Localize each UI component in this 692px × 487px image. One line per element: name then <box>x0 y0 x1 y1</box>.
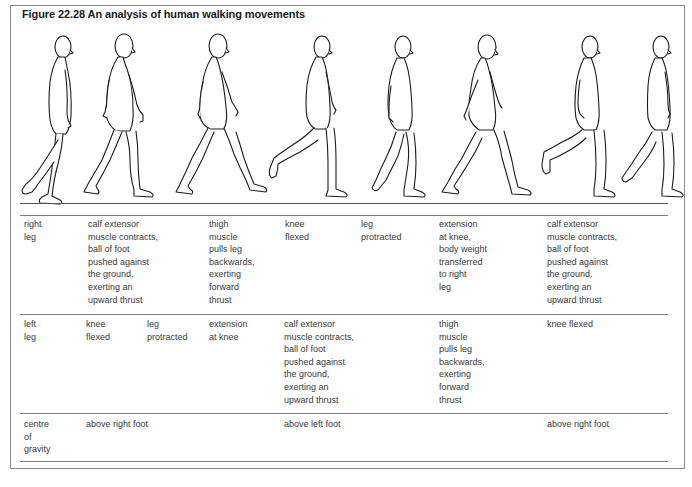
cell-left-leg-phase-3: extension at knee <box>209 318 248 343</box>
cell-cog-phase-1: above right foot <box>86 418 148 431</box>
walker-figure-3 <box>176 34 267 194</box>
cell-right-leg-phase-5: leg protracted <box>361 218 402 243</box>
table-bottom-rule <box>20 461 668 462</box>
cell-right-leg-phase-1: calf extensor muscle contracts, ball of … <box>88 218 158 306</box>
walker-figure-5 <box>372 36 425 197</box>
row-label-left-leg: left leg <box>24 318 36 343</box>
cell-left-leg-phase-6: thigh muscle pulls leg backwards, exerti… <box>439 318 485 406</box>
walker-figure-2 <box>84 34 153 197</box>
walker-figure-6 <box>442 35 531 195</box>
cell-cog-phase-7: above right foot <box>547 418 609 431</box>
cell-left-leg-phase-2: leg protracted <box>147 318 188 343</box>
row-label-right-leg: right leg <box>24 218 42 243</box>
row-label-centre-of-gravity: centre of gravity <box>24 418 51 456</box>
cell-left-leg-phase-1: knee flexed <box>86 318 110 343</box>
row-divider-2 <box>20 413 668 414</box>
walker-figure-1 <box>22 36 73 204</box>
cell-right-leg-phase-7: calf extensor muscle contracts, ball of … <box>547 218 617 306</box>
cell-cog-phase-4: above left foot <box>284 418 341 431</box>
cell-right-leg-phase-6: extension at knee, body weight transferr… <box>439 218 487 294</box>
walking-figures-illustration <box>0 0 692 210</box>
table-top-rule <box>20 215 668 216</box>
ground-line <box>20 203 668 204</box>
cell-left-leg-phase-7: knee flexed <box>547 318 593 331</box>
cell-right-leg-phase-3: thigh muscle pulls leg backwards, exerti… <box>209 218 255 306</box>
walker-figure-8 <box>622 36 683 197</box>
walker-figure-4 <box>269 36 347 197</box>
cell-left-leg-phase-4: calf extensor muscle contracts, ball of … <box>284 318 354 406</box>
cell-right-leg-phase-4: knee flexed <box>285 218 309 243</box>
walker-figure-7 <box>542 36 615 197</box>
row-divider-1 <box>20 314 668 315</box>
